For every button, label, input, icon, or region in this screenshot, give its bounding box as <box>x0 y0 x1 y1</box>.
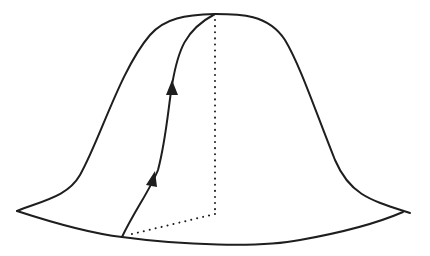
bell-surface-diagram <box>0 0 430 256</box>
base-radius-dotted <box>128 214 215 235</box>
surface-path <box>122 14 215 237</box>
outer-left-profile <box>17 14 215 211</box>
front-rim <box>17 211 403 245</box>
outer-right-profile <box>215 14 410 213</box>
arrow-lower-icon <box>146 171 157 187</box>
arrow-upper-icon <box>166 80 178 95</box>
